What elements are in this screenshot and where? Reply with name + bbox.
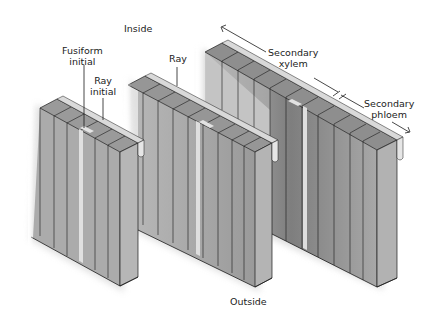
fusiform-initial-line2: initial	[62, 57, 103, 68]
outside-text: Outside	[230, 297, 267, 308]
ray-initial-line1: Ray	[90, 76, 116, 87]
ray-initial-line2: initial	[90, 87, 116, 98]
fusiform-initial-label: Fusiform initial	[62, 46, 103, 67]
outside-label: Outside	[230, 297, 267, 308]
ray-label: Ray	[169, 54, 187, 65]
inside-label: Inside	[124, 24, 152, 35]
inside-text: Inside	[124, 24, 152, 35]
secondary-xylem-label: Secondary xylem	[268, 48, 318, 69]
phloem-arrow-line	[392, 122, 409, 132]
secondary-phloem-label: Secondary phloem	[364, 99, 414, 120]
secondary-xylem-line2: xylem	[268, 59, 318, 70]
ray-initial-label: Ray initial	[90, 76, 116, 97]
secondary-xylem-line1: Secondary	[268, 48, 318, 59]
fusiform-initial-line1: Fusiform	[62, 46, 103, 57]
secondary-phloem-line1: Secondary	[364, 99, 414, 110]
secondary-phloem-line2: phloem	[364, 110, 414, 121]
ray-text: Ray	[169, 54, 187, 65]
cambium-diagram: Inside Fusiform initial Ray initial Ray …	[0, 0, 433, 321]
